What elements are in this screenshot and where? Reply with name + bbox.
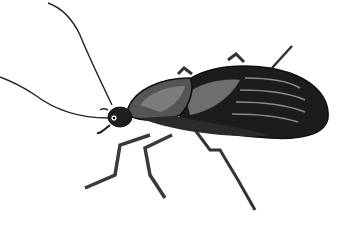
mid-leg-top <box>228 54 244 62</box>
mid-leg-top2 <box>178 68 192 74</box>
antenna-upper <box>48 3 112 105</box>
beetle-illustration <box>0 0 342 226</box>
palp <box>100 109 108 111</box>
middle-leg <box>145 135 172 198</box>
pupil <box>113 117 116 120</box>
antenna-lower <box>0 77 108 118</box>
front-leg <box>85 135 150 188</box>
rear-leg <box>195 130 255 210</box>
beetle-drawing <box>0 0 342 226</box>
mandible <box>97 125 110 133</box>
hind-leg-top <box>272 46 292 68</box>
